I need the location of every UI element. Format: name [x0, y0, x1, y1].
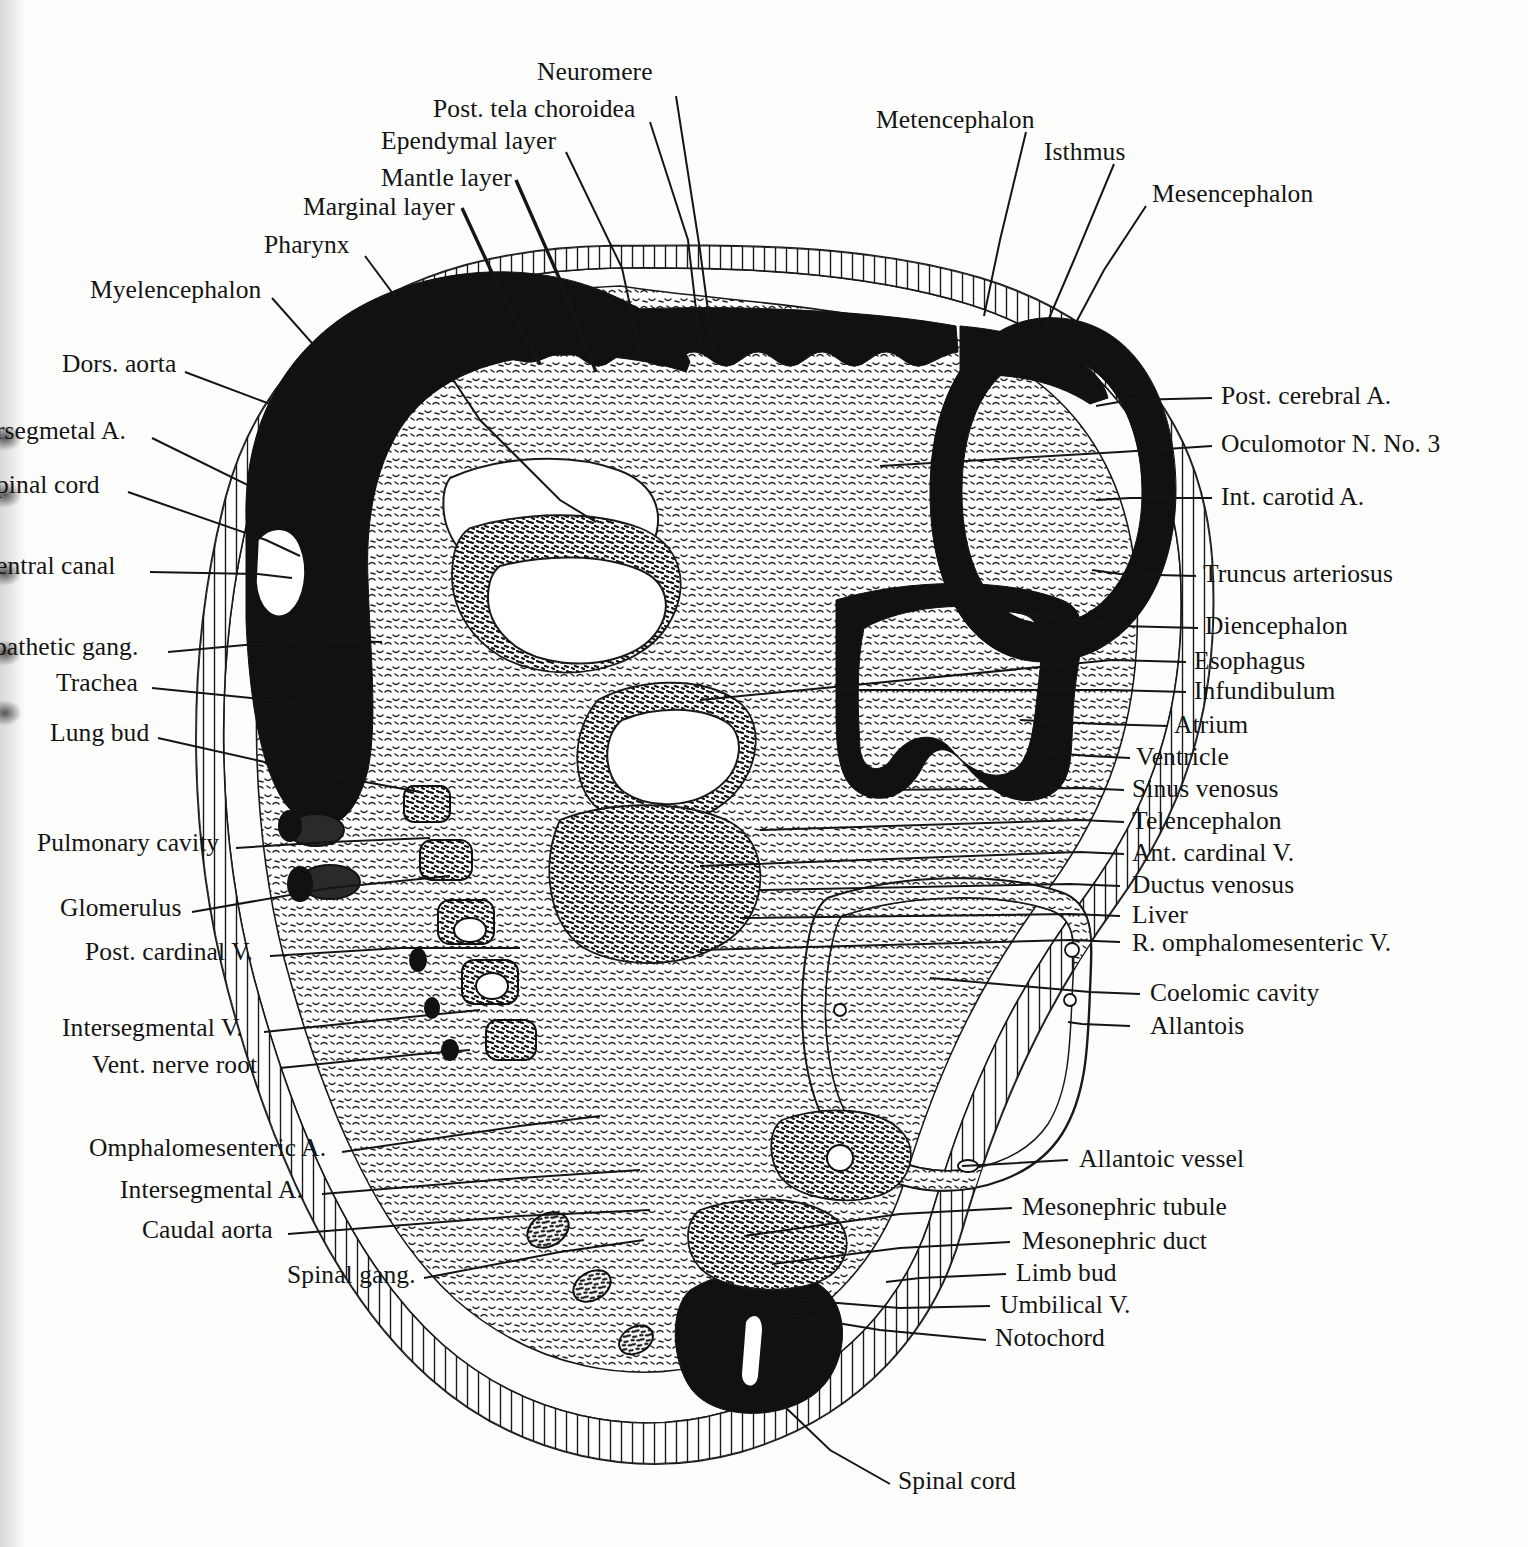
- label-intersegmental-vein: Intersegmental V.: [62, 1015, 243, 1042]
- label-post-cardinal-vein: Post. cardinal V.: [85, 939, 253, 966]
- label-ductus-venosus: Ductus venosus: [1132, 872, 1294, 899]
- label-isthmus: Isthmus: [1044, 139, 1125, 166]
- label-diencephalon: Diencephalon: [1205, 613, 1348, 640]
- label-liver: Liver: [1132, 902, 1188, 929]
- label-pulmonary-cavity: Pulmonary cavity: [37, 830, 219, 857]
- label-truncus-arteriosus: Truncus arteriosus: [1203, 561, 1393, 588]
- label-trachea: Trachea: [56, 670, 138, 697]
- label-ant-cardinal-vein: Ant. cardinal V.: [1132, 840, 1294, 867]
- label-intersegmental-artery: rsegmetal A.: [0, 418, 126, 445]
- label-lung-bud: Lung bud: [50, 720, 149, 747]
- label-sympathetic-gang: pathetic gang.: [0, 634, 138, 661]
- label-mesonephric-tubule: Mesonephric tubule: [1022, 1194, 1227, 1221]
- label-spinal-cord-bottom: Spinal cord: [898, 1468, 1016, 1495]
- label-myelencephalon: Myelencephalon: [90, 277, 261, 304]
- label-dors-aorta: Dors. aorta: [62, 351, 176, 378]
- label-coelomic-cavity: Coelomic cavity: [1150, 980, 1319, 1007]
- label-omphalomesenteric-a: Omphalomesenteric A.: [89, 1135, 326, 1162]
- label-ventricle: Ventricle: [1136, 744, 1229, 771]
- embryo-section-drawing: [0, 0, 1528, 1547]
- label-int-carotid-artery: Int. carotid A.: [1221, 484, 1364, 511]
- label-pharynx: Pharynx: [264, 232, 350, 259]
- label-umbilical-vein: Umbilical V.: [1000, 1292, 1131, 1319]
- label-metencephalon: Metencephalon: [876, 107, 1034, 134]
- label-intersegmental-a: Intersegmental A.: [120, 1177, 303, 1204]
- label-r-omphalomesenteric-v: R. omphalomesenteric V.: [1132, 930, 1391, 957]
- label-central-canal: entral canal: [0, 553, 115, 580]
- label-oculomotor-nerve: Oculomotor N. No. 3: [1221, 431, 1440, 458]
- label-limb-bud: Limb bud: [1016, 1260, 1117, 1287]
- label-mesonephric-duct: Mesonephric duct: [1022, 1228, 1207, 1255]
- label-telencephalon: Telencephalon: [1132, 808, 1282, 835]
- label-caudal-aorta: Caudal aorta: [142, 1217, 273, 1244]
- label-esophagus: Esophagus: [1194, 648, 1305, 675]
- label-post-tela-choroidea: Post. tela choroidea: [433, 96, 635, 123]
- label-glomerulus: Glomerulus: [60, 895, 181, 922]
- label-atrium: Atrium: [1174, 712, 1248, 739]
- label-ependymal-layer: Ependymal layer: [381, 128, 556, 155]
- label-allantois: Allantois: [1150, 1013, 1244, 1040]
- label-mesencephalon: Mesencephalon: [1152, 181, 1313, 208]
- label-mantle-layer: Mantle layer: [381, 165, 512, 192]
- label-vent-nerve-root: Vent. nerve root: [92, 1052, 257, 1079]
- label-marginal-layer: Marginal layer: [303, 194, 455, 221]
- label-post-cerebral-artery: Post. cerebral A.: [1221, 383, 1391, 410]
- label-spinal-gang: Spinal gang.: [287, 1262, 416, 1289]
- label-notochord: Notochord: [995, 1325, 1105, 1352]
- label-sinus-venosus: Sinus venosus: [1132, 776, 1279, 803]
- label-neuromere: Neuromere: [537, 59, 653, 86]
- label-allantoic-vessel: Allantoic vessel: [1079, 1146, 1244, 1173]
- figure-page: Neuromere Post. tela choroidea Ependymal…: [0, 0, 1528, 1547]
- label-infundibulum: Infundibulum: [1194, 678, 1335, 705]
- label-spinal-cord-left: pinal cord: [0, 472, 100, 499]
